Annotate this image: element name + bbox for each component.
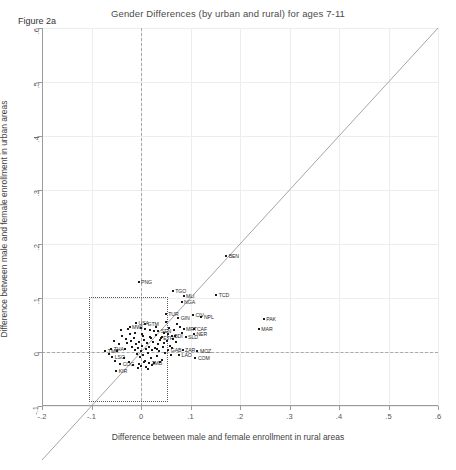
x-tick-label: .2	[237, 412, 243, 421]
scatter-point	[144, 328, 146, 330]
x-tick	[141, 406, 142, 410]
scatter-point	[183, 295, 185, 297]
scatter-point	[153, 330, 155, 332]
scatter-point	[146, 342, 148, 344]
scatter-point-label: NER	[196, 331, 207, 337]
scatter-point	[111, 356, 113, 358]
y-tick-label: .1	[32, 298, 41, 304]
scatter-point	[158, 350, 160, 352]
x-axis-title: Difference between male and female enrol…	[0, 432, 456, 442]
scatter-point-label: COM	[198, 355, 210, 361]
scatter-point-label: MAR	[261, 326, 272, 332]
scatter-point	[118, 343, 120, 345]
scatter-point	[140, 350, 142, 352]
scatter-point	[136, 353, 138, 355]
scatter-point	[145, 348, 147, 350]
scatter-point	[147, 352, 149, 354]
chart-title: Gender Differences (by urban and rural) …	[0, 8, 456, 19]
scatter-point	[143, 339, 145, 341]
scatter-point-label: TGO	[175, 288, 186, 294]
scatter-point	[156, 355, 158, 357]
scatter-point-label: NPL	[204, 314, 214, 320]
scatter-point	[142, 335, 144, 337]
scatter-point	[138, 341, 140, 343]
x-tick	[240, 406, 241, 410]
scatter-point	[173, 329, 175, 331]
scatter-point	[165, 313, 167, 315]
x-tick-label: 0	[139, 412, 143, 421]
scatter-point	[172, 290, 174, 292]
scatter-point	[130, 340, 132, 342]
scatter-point	[137, 367, 139, 369]
y-tick-label: .2	[32, 244, 41, 250]
scatter-point	[141, 345, 143, 347]
scatter-point	[159, 361, 161, 363]
scatter-point	[150, 337, 152, 339]
scatter-point	[151, 364, 153, 366]
scatter-point	[183, 328, 185, 330]
scatter-point	[152, 341, 154, 343]
scatter-point	[175, 341, 177, 343]
scatter-point	[196, 350, 198, 352]
scatter-point	[132, 364, 134, 366]
y-tick-label: .4	[32, 136, 41, 142]
x-tick-label: .6	[435, 412, 441, 421]
gridline-vertical	[438, 28, 439, 406]
figure-number-note: Figure 2a	[18, 16, 56, 26]
scatter-point	[162, 346, 164, 348]
scatter-point	[124, 348, 126, 350]
x-tick	[438, 406, 439, 410]
scatter-point	[108, 353, 110, 355]
x-tick	[42, 406, 43, 410]
x-tick-label: .1	[187, 412, 193, 421]
scatter-point-label: MOZ	[200, 348, 211, 354]
scatter-point	[155, 334, 157, 336]
scatter-point	[170, 354, 172, 356]
scatter-point	[263, 318, 265, 320]
scatter-point	[159, 339, 161, 341]
scatter-point	[167, 349, 169, 351]
scatter-point-label: KIR	[119, 368, 127, 374]
scatter-point	[166, 340, 168, 342]
scatter-point	[150, 357, 152, 359]
scatter-point	[161, 336, 163, 338]
scatter-point	[157, 343, 159, 345]
scatter-point	[140, 365, 142, 367]
scatter-point-label: NGA	[184, 299, 195, 305]
scatter-point	[181, 332, 183, 334]
y-tick-label: .5	[32, 82, 41, 88]
scatter-point	[164, 352, 166, 354]
scatter-point	[127, 328, 129, 330]
scatter-point	[134, 332, 136, 334]
scatter-point	[149, 329, 151, 331]
scatter-point	[142, 354, 144, 356]
x-tick	[290, 406, 291, 410]
scatter-point	[123, 357, 125, 359]
plot-area: PNGBENTGOMLITCDNGATURGINCIVNPLPAKMARMRTC…	[42, 28, 438, 406]
scatter-point	[104, 350, 106, 352]
scatter-point	[138, 281, 140, 283]
scatter-point	[113, 340, 115, 342]
scatter-point	[155, 326, 157, 328]
x-tick-label: -.2	[38, 412, 47, 421]
scatter-point	[141, 333, 143, 335]
x-tick-label: -.1	[87, 412, 96, 421]
scatter-point	[168, 327, 170, 329]
scatter-point	[179, 326, 181, 328]
scatter-point	[167, 333, 169, 335]
scatter-point	[140, 327, 142, 329]
scatter-point	[115, 370, 117, 372]
scatter-point	[163, 342, 165, 344]
scatter-point	[165, 321, 167, 323]
scatter-point	[119, 363, 121, 365]
scatter-point	[225, 255, 227, 257]
scatter-point	[147, 368, 149, 370]
scatter-point-label: BEN	[229, 253, 239, 259]
scatter-point	[131, 346, 133, 348]
y-axis-title: Difference between male and female enrol…	[0, 39, 9, 399]
x-tick	[389, 406, 390, 410]
scatter-point	[138, 363, 140, 365]
scatter-point	[129, 333, 131, 335]
scatter-point	[157, 330, 159, 332]
scatter-point	[114, 360, 116, 362]
